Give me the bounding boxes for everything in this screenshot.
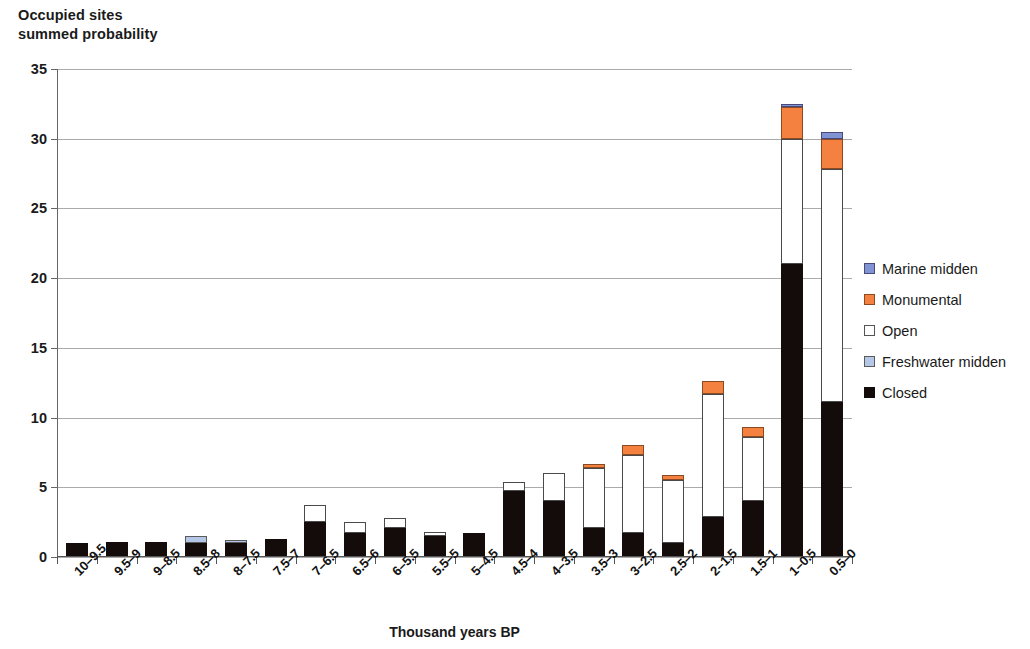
legend-item[interactable]: Marine midden [864, 253, 1030, 284]
bar-segment-closed[interactable] [503, 491, 525, 557]
bar-slot [812, 69, 852, 557]
page-title: Occupied sites summed probability [18, 6, 158, 44]
plot-area: 05101520253035 [57, 69, 852, 557]
legend-swatch-icon [864, 263, 875, 274]
bar-slot [137, 69, 177, 557]
bar-segment-monumental[interactable] [622, 445, 644, 455]
bar-slot [335, 69, 375, 557]
legend-item[interactable]: Closed [864, 377, 1030, 408]
bar-slot [693, 69, 733, 557]
legend: Marine middenMonumentalOpenFreshwater mi… [864, 253, 1030, 408]
bar-slot [455, 69, 495, 557]
stacked-bar[interactable] [583, 464, 605, 557]
legend-swatch-icon [864, 387, 875, 398]
bar-segment-open[interactable] [503, 482, 525, 492]
bar-segment-closed[interactable] [821, 402, 843, 557]
y-tick-label: 25 [31, 200, 47, 216]
stacked-bar[interactable] [821, 132, 843, 557]
legend-item[interactable]: Freshwater midden [864, 346, 1030, 377]
bar-segment-closed[interactable] [781, 264, 803, 557]
bar-segment-open[interactable] [622, 455, 644, 532]
y-tick-label: 5 [39, 479, 47, 495]
y-tick-label: 35 [31, 61, 47, 77]
bar-segment-monumental[interactable] [781, 107, 803, 139]
stacked-bar[interactable] [384, 518, 406, 557]
bar-segment-closed[interactable] [583, 528, 605, 557]
bar-segment-closed[interactable] [742, 501, 764, 557]
bar-slot [534, 69, 574, 557]
bar-segment-freshwater-midden[interactable] [185, 536, 207, 543]
bar-segment-open[interactable] [702, 394, 724, 517]
stacked-bar[interactable] [622, 445, 644, 557]
stacked-bar[interactable] [543, 473, 565, 557]
bar-slot [296, 69, 336, 557]
bar-segment-monumental[interactable] [821, 139, 843, 170]
bar-slot [176, 69, 216, 557]
stacked-bar[interactable] [702, 381, 724, 557]
legend-swatch-icon [864, 356, 875, 367]
y-tick-label: 0 [39, 549, 47, 565]
legend-swatch-icon [864, 294, 875, 305]
bar-slot [574, 69, 614, 557]
bar-segment-monumental[interactable] [742, 427, 764, 437]
stacked-bar[interactable] [662, 475, 684, 557]
bar-slot [653, 69, 693, 557]
x-axis-labels: 10–9.59.5–99–8.58.5–88–7.57.5–77–6.56.5–… [57, 560, 852, 620]
bar-segment-open[interactable] [304, 505, 326, 522]
bar-segment-open[interactable] [384, 518, 406, 528]
bar-slot [216, 69, 256, 557]
bar-segment-marine-midden[interactable] [821, 132, 843, 139]
legend-label: Monumental [882, 292, 962, 308]
stacked-bar[interactable] [304, 505, 326, 557]
x-axis-title: Thousand years BP [57, 624, 852, 640]
stacked-bar[interactable] [344, 522, 366, 557]
bar-slot [773, 69, 813, 557]
legend-label: Open [882, 323, 917, 339]
bar-slot [415, 69, 455, 557]
bar-slot [733, 69, 773, 557]
bar-segment-open[interactable] [543, 473, 565, 501]
y-tick-label: 10 [31, 410, 47, 426]
stacked-bar[interactable] [781, 104, 803, 557]
chart-page: Occupied sites summed probability 051015… [0, 0, 1030, 649]
bar-segment-closed[interactable] [543, 501, 565, 557]
bar-slot [256, 69, 296, 557]
bar-slot [375, 69, 415, 557]
bar-segment-open[interactable] [821, 169, 843, 402]
y-tick-label: 30 [31, 131, 47, 147]
y-tick-label: 15 [31, 340, 47, 356]
bar-segment-open[interactable] [742, 437, 764, 501]
legend-label: Marine midden [882, 261, 978, 277]
legend-swatch-icon [864, 325, 875, 336]
legend-item[interactable]: Monumental [864, 284, 1030, 315]
legend-label: Closed [882, 385, 927, 401]
y-axis-line [57, 69, 58, 557]
bar-slot [57, 69, 97, 557]
y-tick-label: 20 [31, 270, 47, 286]
bar-segment-closed[interactable] [304, 522, 326, 557]
stacked-bar[interactable] [742, 427, 764, 557]
bar-segment-closed[interactable] [702, 517, 724, 557]
legend-item[interactable]: Open [864, 315, 1030, 346]
legend-label: Freshwater midden [882, 354, 1006, 370]
bar-slot [97, 69, 137, 557]
bar-segment-open[interactable] [662, 480, 684, 543]
bar-group [57, 69, 852, 557]
bar-segment-open[interactable] [344, 522, 366, 533]
stacked-bar[interactable] [503, 482, 525, 557]
bar-segment-monumental[interactable] [702, 381, 724, 394]
bar-slot [614, 69, 654, 557]
bar-segment-open[interactable] [781, 139, 803, 264]
bar-segment-open[interactable] [583, 468, 605, 528]
bar-slot [494, 69, 534, 557]
